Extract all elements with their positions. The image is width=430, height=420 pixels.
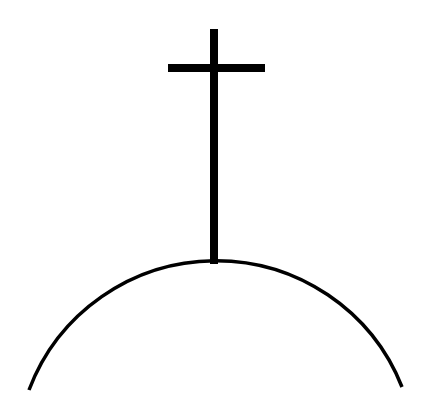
cross-horizontal-beam — [168, 64, 265, 72]
illustration-canvas — [0, 0, 430, 420]
